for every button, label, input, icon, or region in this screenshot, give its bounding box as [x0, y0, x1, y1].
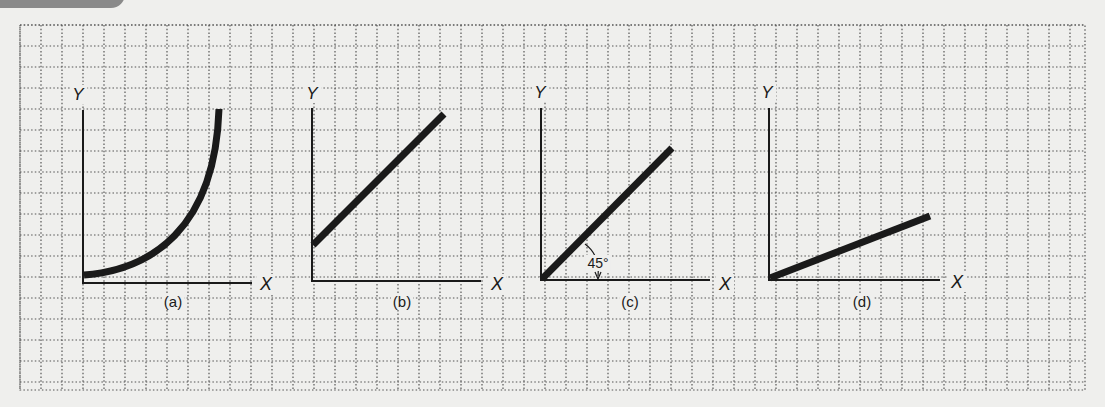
x-axis-label: X	[259, 274, 273, 294]
figure-canvas: Y X (a) Y X (b) 45° Y X (c) Y X (d)	[0, 0, 1105, 407]
panel-caption: (b)	[393, 293, 411, 310]
panel-caption: (c)	[621, 293, 639, 310]
x-axis-label: X	[950, 272, 964, 292]
x-axis-label: X	[490, 274, 504, 294]
linear-line	[313, 114, 444, 245]
shallow-line	[770, 216, 930, 278]
y-axis-label: Y	[306, 84, 319, 103]
angle-label: 45°	[587, 255, 608, 271]
x-axis-label: X	[718, 274, 732, 294]
panel-caption: (d)	[853, 293, 871, 310]
y-axis-label: Y	[72, 85, 85, 104]
y-axis-label: Y	[761, 83, 774, 102]
panel-a: Y X (a)	[70, 85, 275, 310]
panel-c: 45° Y X (c)	[532, 83, 734, 310]
panel-d: Y X (d)	[759, 83, 966, 310]
panel-caption: (a)	[164, 293, 182, 310]
y-axis-label: Y	[534, 83, 547, 102]
